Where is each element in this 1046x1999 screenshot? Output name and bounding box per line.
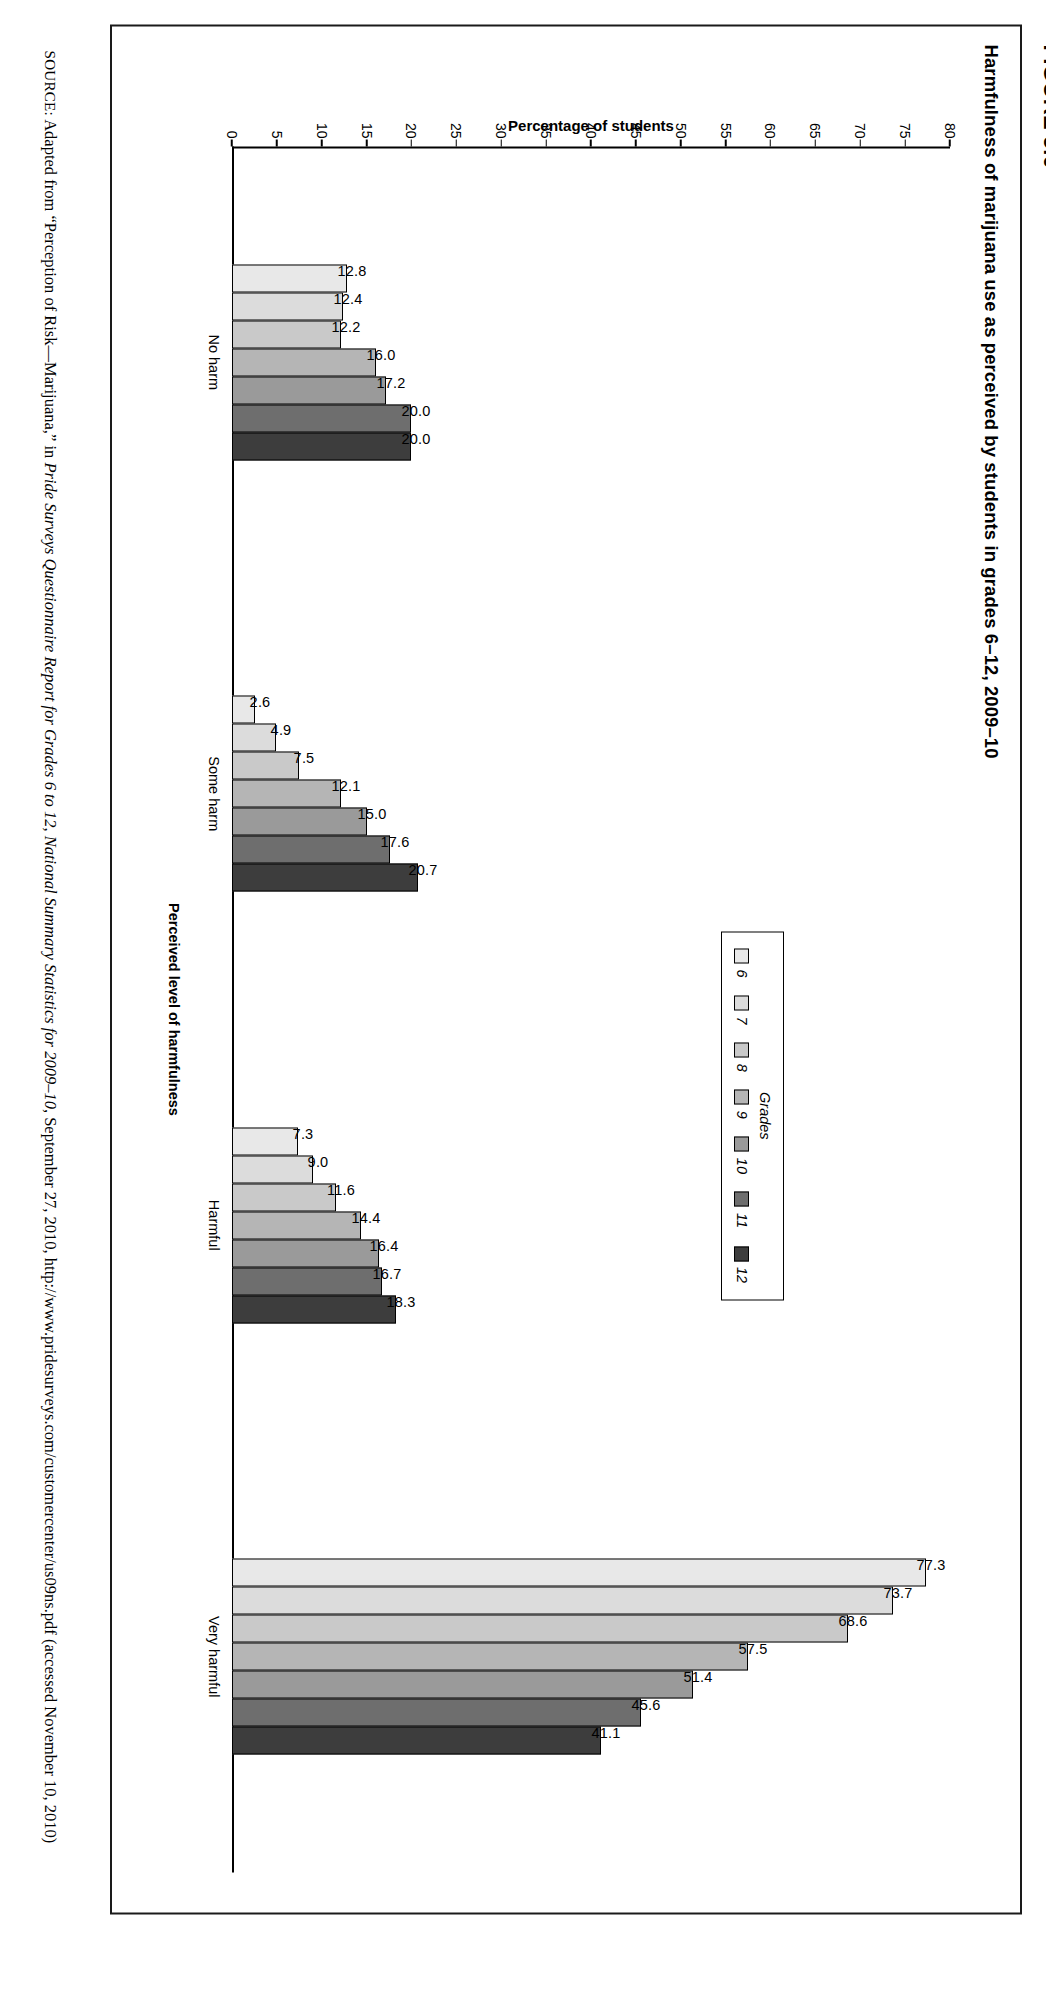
bar-value-label: 12.2 bbox=[332, 318, 361, 334]
bar[interactable]: 12.1 bbox=[232, 779, 341, 807]
bar[interactable]: 15.0 bbox=[232, 807, 367, 835]
bar-value-label: 20.0 bbox=[402, 402, 431, 418]
bar[interactable]: 16.7 bbox=[232, 1267, 382, 1295]
bar[interactable]: 7.5 bbox=[232, 751, 299, 779]
bar-value-label: 16.7 bbox=[372, 1265, 401, 1281]
bar-wrapper: 16.4 bbox=[232, 1239, 950, 1267]
source-text-before: Adapted from “Perception of Risk—Marijua… bbox=[41, 115, 60, 461]
legend-label: 6 bbox=[734, 969, 750, 977]
y-tick-mark bbox=[860, 139, 862, 146]
bar[interactable]: 9.0 bbox=[232, 1155, 313, 1183]
bar-wrapper: 11.6 bbox=[232, 1183, 950, 1211]
y-tick-mark bbox=[366, 139, 368, 146]
bar[interactable]: 7.3 bbox=[232, 1127, 298, 1155]
bar-value-label: 7.3 bbox=[292, 1125, 313, 1141]
legend-item[interactable]: 11 bbox=[734, 1191, 750, 1227]
y-tick-label: 60 bbox=[763, 122, 779, 138]
bar[interactable]: 51.4 bbox=[232, 1670, 693, 1698]
bar[interactable]: 2.6 bbox=[232, 695, 255, 723]
y-tick-label: 20 bbox=[404, 122, 420, 138]
bar-value-label: 4.9 bbox=[271, 721, 292, 737]
bar-wrapper: 16.0 bbox=[232, 348, 950, 376]
legend-item[interactable]: 12 bbox=[734, 1246, 750, 1283]
x-category-label: No harm bbox=[206, 146, 222, 578]
bar-value-label: 77.3 bbox=[916, 1556, 945, 1572]
y-tick-mark bbox=[411, 139, 413, 146]
y-tick-label: 30 bbox=[493, 122, 509, 138]
y-tick-label: 75 bbox=[897, 122, 913, 138]
legend-label: 11 bbox=[734, 1212, 750, 1227]
bar[interactable]: 57.5 bbox=[232, 1642, 748, 1670]
bar[interactable]: 4.9 bbox=[232, 723, 276, 751]
bar-wrapper: 77.3 bbox=[232, 1558, 950, 1586]
bar[interactable]: 12.8 bbox=[232, 264, 347, 292]
legend-item[interactable]: 10 bbox=[734, 1136, 750, 1173]
bar[interactable]: 16.0 bbox=[232, 348, 376, 376]
scanned-page: FIGURE 5.6 Harmfulness of marijuana use … bbox=[0, 0, 1046, 1999]
y-axis-ticks: 05101520253035404550556065707580 bbox=[232, 94, 950, 146]
bar[interactable]: 16.4 bbox=[232, 1239, 379, 1267]
legend-item[interactable]: 8 bbox=[734, 1042, 750, 1071]
y-tick-mark bbox=[321, 139, 323, 146]
bar-value-label: 16.4 bbox=[370, 1237, 399, 1253]
legend-title: Grades bbox=[757, 948, 773, 1283]
bar[interactable]: 12.2 bbox=[232, 320, 341, 348]
bar[interactable]: 20.0 bbox=[232, 432, 412, 460]
bar-wrapper: 15.0 bbox=[232, 807, 950, 835]
bar-value-label: 45.6 bbox=[632, 1696, 661, 1712]
y-tick-mark bbox=[815, 139, 817, 146]
bar[interactable]: 77.3 bbox=[232, 1558, 926, 1586]
bar-wrapper: 51.4 bbox=[232, 1670, 950, 1698]
bar-groups: 12.812.412.216.017.220.020.0No harm2.64.… bbox=[232, 146, 950, 1872]
bar-wrapper: 7.5 bbox=[232, 751, 950, 779]
bar-value-label: 18.3 bbox=[387, 1293, 416, 1309]
bar-value-label: 57.5 bbox=[739, 1640, 768, 1656]
bar[interactable]: 20.7 bbox=[232, 863, 418, 891]
bar-value-label: 11.6 bbox=[327, 1181, 355, 1197]
bar-wrapper: 12.1 bbox=[232, 779, 950, 807]
bars: 77.373.768.657.551.445.641.1 bbox=[232, 1558, 950, 1754]
bar[interactable]: 12.4 bbox=[232, 292, 343, 320]
y-tick-mark bbox=[456, 139, 458, 146]
legend-item[interactable]: 9 bbox=[734, 1089, 750, 1118]
legend-item[interactable]: 6 bbox=[734, 948, 750, 977]
bar[interactable]: 41.1 bbox=[232, 1726, 601, 1754]
bar-value-label: 51.4 bbox=[684, 1668, 713, 1684]
bar-value-label: 17.6 bbox=[380, 833, 409, 849]
legend-item[interactable]: 7 bbox=[734, 995, 750, 1024]
y-tick-label: 45 bbox=[628, 122, 644, 138]
y-tick-mark bbox=[276, 139, 278, 146]
legend-label: 7 bbox=[734, 1016, 750, 1024]
bar-value-label: 12.4 bbox=[334, 290, 363, 306]
chart-legend: Grades 6789101112 bbox=[721, 931, 784, 1300]
x-category-label: Very harmful bbox=[206, 1441, 222, 1873]
legend-swatch-icon bbox=[735, 1042, 750, 1057]
legend-label: 10 bbox=[734, 1157, 750, 1173]
bar-value-label: 20.0 bbox=[402, 430, 431, 446]
bar-value-label: 41.1 bbox=[591, 1724, 620, 1740]
bar[interactable]: 17.6 bbox=[232, 835, 390, 863]
bar[interactable]: 18.3 bbox=[232, 1295, 396, 1323]
bar[interactable]: 68.6 bbox=[232, 1614, 848, 1642]
bar-wrapper: 4.9 bbox=[232, 723, 950, 751]
source-label: SOURCE: bbox=[42, 50, 58, 115]
bars: 7.39.011.614.416.416.718.3 bbox=[232, 1127, 950, 1323]
bar-group: 77.373.768.657.551.445.641.1Very harmful bbox=[232, 1441, 950, 1873]
bar[interactable]: 73.7 bbox=[232, 1586, 893, 1614]
x-category-label: Some harm bbox=[206, 578, 222, 1010]
bar[interactable]: 20.0 bbox=[232, 404, 412, 432]
y-tick-mark bbox=[770, 139, 772, 146]
bar-value-label: 17.2 bbox=[377, 374, 406, 390]
x-category-label: Harmful bbox=[206, 1009, 222, 1441]
bar[interactable]: 45.6 bbox=[232, 1698, 641, 1726]
y-tick-label: 70 bbox=[852, 122, 868, 138]
source-text-after: , September 27, 2010, http://www.pridesu… bbox=[41, 1108, 60, 1842]
y-tick-label: 10 bbox=[314, 122, 330, 138]
bar[interactable]: 17.2 bbox=[232, 376, 386, 404]
y-tick-mark bbox=[231, 139, 233, 146]
legend-label: 9 bbox=[734, 1110, 750, 1118]
bar[interactable]: 14.4 bbox=[232, 1211, 361, 1239]
bars: 12.812.412.216.017.220.020.0 bbox=[232, 264, 950, 460]
bar[interactable]: 11.6 bbox=[232, 1183, 336, 1211]
bar-wrapper: 12.2 bbox=[232, 320, 950, 348]
